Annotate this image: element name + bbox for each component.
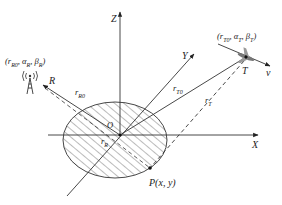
target-point-marker: [148, 166, 152, 170]
origin-marker: [118, 133, 121, 136]
transmitter-to-point-dashed-line: [150, 61, 244, 168]
receiver-label: R: [49, 76, 55, 86]
z-axis-label: Z: [111, 14, 117, 24]
radio-tower-icon: [23, 71, 38, 94]
bistatic-geometry-diagram: [0, 0, 282, 205]
receiver-range-label: rR0: [75, 88, 85, 99]
point-to-receiver-range-label: rR: [101, 137, 108, 148]
transmitter-range-label: rT0: [173, 84, 183, 95]
receiver-coords-label: (rR0, αR, βR): [5, 57, 45, 68]
point-to-transmitter-range-label: rT: [205, 96, 212, 107]
velocity-label: v: [266, 68, 270, 78]
y-axis-label: Y: [182, 51, 188, 61]
target-point-label: P(x, y): [149, 178, 176, 188]
transmitter-coords-label: (rT0, αT, βT): [217, 32, 256, 43]
origin-label: O: [107, 121, 113, 130]
transmitter-range-line: [120, 57, 246, 135]
transmitter-label: T: [242, 66, 248, 76]
x-axis-label: X: [252, 140, 258, 150]
